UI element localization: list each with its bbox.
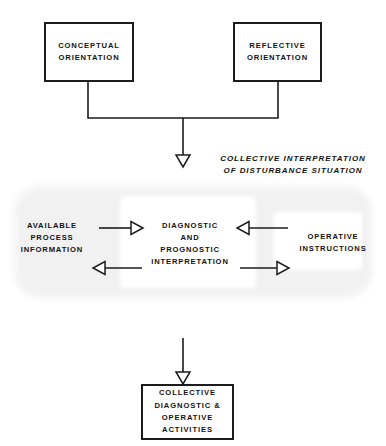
node-reflective-orientation[interactable]: REFLECTIVE ORIENTATION [233, 22, 322, 82]
diagram-canvas: CONCEPTUAL ORIENTATION REFLECTIVE ORIENT… [0, 0, 386, 446]
node-conceptual-orientation-label: CONCEPTUAL ORIENTATION [58, 40, 120, 65]
annotation-collective-interpretation: COLLECTIVE INTERPRETATION OF DISTURBANCE… [205, 153, 381, 178]
node-operative-instructions[interactable]: OPERATIVE INSTRUCTIONS [288, 231, 378, 255]
node-reflective-orientation-label: REFLECTIVE ORIENTATION [247, 40, 308, 65]
down-to-activities-arrowhead [176, 372, 190, 384]
node-available-process-information[interactable]: AVAILABLE PROCESS INFORMATION [10, 220, 94, 256]
node-conceptual-orientation[interactable]: CONCEPTUAL ORIENTATION [44, 22, 134, 82]
orientation-merge-line [88, 82, 278, 118]
node-collective-activities[interactable]: COLLECTIVE DIAGNOSTIC & OPERATIVE ACTIVI… [141, 384, 234, 440]
down-to-interpretation-arrowhead [176, 155, 190, 167]
node-diagnostic-prognostic-interpretation[interactable]: DIAGNOSTIC AND PROGNOSTIC INTERPRETATION [134, 220, 246, 269]
node-collective-activities-label: COLLECTIVE DIAGNOSTIC & OPERATIVE ACTIVI… [154, 387, 220, 436]
